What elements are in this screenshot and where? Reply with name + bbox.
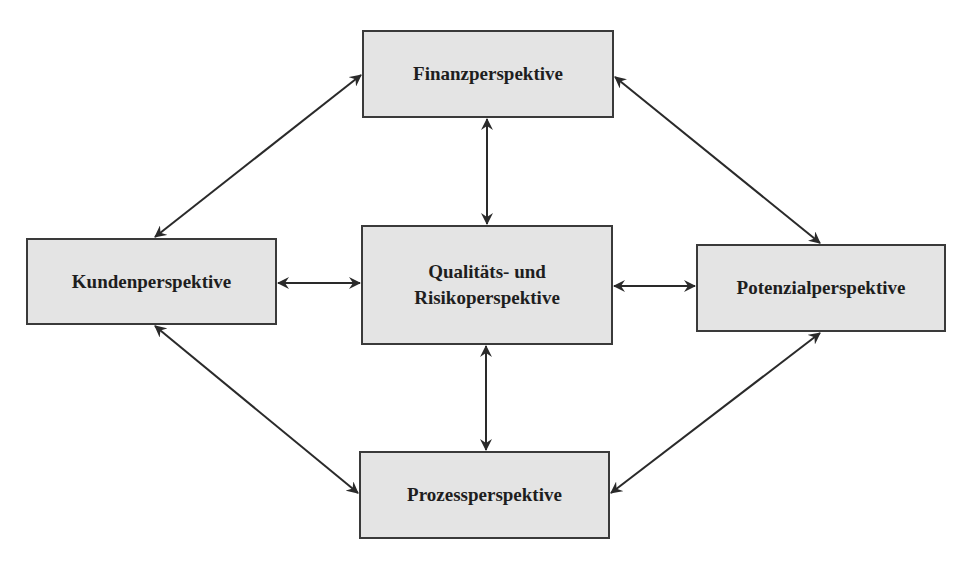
node-label: Kundenperspektive xyxy=(72,269,231,295)
node-kundenperspektive: Kundenperspektive xyxy=(26,238,277,325)
node-potenzialperspektive: Potenzialperspektive xyxy=(696,244,946,332)
node-label: Prozessperspektive xyxy=(407,482,562,508)
node-label: Potenzialperspektive xyxy=(737,275,906,301)
node-label-line1: Qualitäts- und xyxy=(428,259,546,285)
node-label: Finanzperspektive xyxy=(413,61,563,87)
node-prozessperspektive: Prozessperspektive xyxy=(359,451,610,539)
arrow-potenzial-prozess xyxy=(611,333,820,493)
node-label-line2: Risikoperspektive xyxy=(414,285,560,311)
perspectives-diagram: Finanzperspektive Kundenperspektive Qual… xyxy=(0,0,966,563)
node-finanzperspektive: Finanzperspektive xyxy=(362,30,614,118)
arrow-kunden-finanz xyxy=(155,75,361,237)
node-qualitaets-risikoperspektive: Qualitäts- und Risikoperspektive xyxy=(361,225,613,345)
arrow-finanz-potenzial xyxy=(615,77,820,243)
arrow-kunden-prozess xyxy=(155,326,358,493)
